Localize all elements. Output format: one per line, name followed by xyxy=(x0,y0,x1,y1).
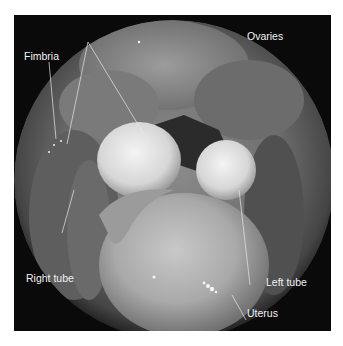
label-fimbria: Fimbria xyxy=(24,51,59,62)
right-ovary xyxy=(97,122,181,198)
label-uterus: Uterus xyxy=(247,308,278,319)
label-left-tube: Left tube xyxy=(266,277,307,288)
label-ovaries: Ovaries xyxy=(247,31,283,42)
left-ovary xyxy=(196,140,256,200)
label-right-tube: Right tube xyxy=(26,273,74,284)
laparoscopic-image-frame: Fimbria Ovaries Right tube Left tube Ute… xyxy=(14,15,331,331)
